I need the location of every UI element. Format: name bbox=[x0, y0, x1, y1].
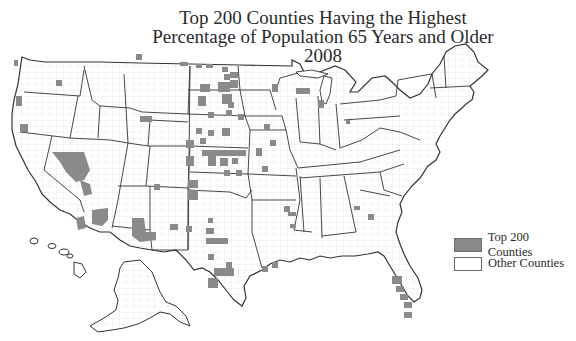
legend-item-top-200: Top 200 Counties bbox=[454, 235, 576, 254]
legend-label: Top 200 Counties bbox=[488, 230, 576, 260]
legend-label: Other Counties bbox=[488, 256, 564, 271]
legend: Top 200 Counties Other Counties bbox=[454, 235, 576, 273]
legend-item-other: Other Counties bbox=[454, 254, 576, 273]
map-title: Top 200 Counties Having the Highest Perc… bbox=[0, 8, 576, 65]
title-line-3: 2008 bbox=[70, 46, 576, 65]
title-line-1: Top 200 Counties Having the Highest bbox=[70, 8, 576, 27]
top-200-swatch bbox=[454, 238, 482, 252]
other-swatch bbox=[454, 257, 482, 271]
hawaii-inset bbox=[30, 238, 86, 278]
title-line-2: Percentage of Population 65 Years and Ol… bbox=[70, 27, 576, 46]
alaska-inset bbox=[90, 260, 190, 332]
